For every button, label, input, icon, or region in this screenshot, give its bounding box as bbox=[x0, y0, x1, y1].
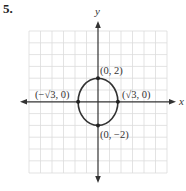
arrow-down-icon bbox=[95, 176, 101, 183]
x-axis-label: x bbox=[178, 95, 184, 107]
arrow-right-icon bbox=[169, 99, 176, 105]
point-right bbox=[116, 100, 120, 104]
label-top: (0, 2) bbox=[100, 65, 123, 77]
point-left bbox=[76, 100, 80, 104]
ellipse-graph: x y (0, 2) (0, −2) (−√3, 0) (√3, 0) bbox=[0, 0, 186, 191]
arrow-left-icon bbox=[20, 99, 27, 105]
label-right: (√3, 0) bbox=[122, 89, 151, 101]
label-left: (−√3, 0) bbox=[35, 89, 70, 101]
point-top bbox=[96, 76, 100, 80]
arrow-up-icon bbox=[95, 21, 101, 28]
point-bottom bbox=[96, 123, 100, 127]
y-axis-label: y bbox=[94, 5, 100, 17]
label-bottom: (0, −2) bbox=[100, 129, 129, 141]
